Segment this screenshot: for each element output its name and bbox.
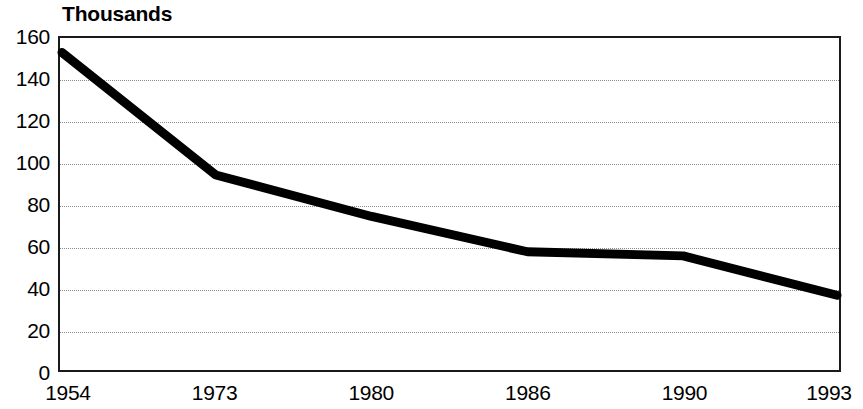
x-axis-tick-label: 1973 — [155, 381, 275, 405]
x-axis-tick-label: 1990 — [624, 381, 744, 405]
x-axis-tick-label: 1980 — [311, 381, 431, 405]
line-chart: Thousands 160140120100806040200 19541973… — [0, 0, 863, 409]
x-axis-tick-label: 1993 — [769, 381, 863, 405]
x-axis-tick-labels: 195419731980198619901993 — [0, 0, 863, 409]
x-axis-tick-label: 1954 — [8, 381, 128, 405]
x-axis-tick-label: 1986 — [468, 381, 588, 405]
